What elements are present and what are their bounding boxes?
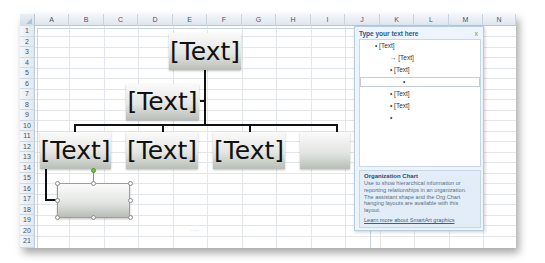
connector-sub-vertical [45, 169, 47, 201]
row-header-11[interactable]: 11 [20, 131, 35, 142]
arrow-bullet-icon: → [390, 54, 397, 61]
learn-more-link[interactable]: Learn more about SmartArt graphics [364, 217, 476, 223]
resize-handle-w[interactable] [55, 198, 60, 203]
text-pane-item-text[interactable]: [Text] [394, 66, 410, 73]
row-header-14[interactable]: 14 [20, 163, 35, 174]
org-child-box-2[interactable]: [Text] [126, 132, 198, 169]
connector-child-3 [249, 124, 251, 132]
row-header-10[interactable]: 10 [20, 121, 35, 132]
column-header-j[interactable]: J [345, 14, 380, 26]
text-pane-item[interactable]: • [390, 114, 392, 121]
row-header-1[interactable]: 1 [20, 26, 35, 37]
row-header-12[interactable]: 12 [20, 142, 35, 153]
row-header-13[interactable]: 13 [20, 152, 35, 163]
org-top-box[interactable]: [Text] [169, 33, 241, 70]
text-pane-item[interactable]: • [Text] [390, 102, 410, 109]
frame-resize-handle-top[interactable]: .... [188, 24, 196, 30]
rotation-handle[interactable] [91, 168, 96, 173]
column-header-f[interactable]: F [207, 14, 242, 26]
org-selected-shape[interactable] [57, 183, 130, 218]
connector-assistant [200, 100, 204, 102]
close-icon[interactable]: x [475, 30, 479, 37]
column-header-g[interactable]: G [242, 14, 276, 26]
column-header-l[interactable]: L [414, 14, 449, 26]
row-header-21[interactable]: 21 [20, 236, 35, 248]
resize-handle-s[interactable] [91, 215, 96, 220]
column-header-k[interactable]: K [380, 14, 414, 26]
resize-handle-e[interactable] [128, 198, 133, 203]
layout-description-title: Organization Chart [364, 173, 476, 179]
row-header-16[interactable]: 16 [20, 184, 35, 195]
resize-handle-nw[interactable] [55, 181, 60, 186]
layout-description-body: Use to show hierarchical information or … [364, 180, 476, 214]
column-header-d[interactable]: D [138, 14, 173, 26]
text-pane-item-text[interactable]: [Text] [394, 90, 410, 97]
connector-top-vertical [204, 70, 206, 125]
column-header-a[interactable]: A [35, 14, 69, 26]
text-pane-item-text[interactable]: [Text] [379, 42, 395, 49]
text-pane-item-selected-row [360, 77, 480, 87]
column-header-c[interactable]: C [104, 14, 138, 26]
text-pane-item[interactable]: • [Text] [390, 90, 410, 97]
org-child-box-1[interactable]: [Text] [40, 132, 111, 169]
connector-horizontal [74, 124, 338, 126]
bullet-icon: • [375, 42, 377, 49]
text-pane-item[interactable]: • [Text] [375, 42, 395, 49]
bullet-icon: • [390, 90, 392, 97]
layout-description: Organization Chart Use to show hierarchi… [359, 170, 481, 228]
connector-child-4 [336, 124, 338, 132]
bullet-icon: • [390, 114, 392, 121]
column-header-m[interactable]: M [449, 14, 483, 26]
resize-handle-se[interactable] [128, 215, 133, 220]
bullet-icon: • [390, 102, 392, 109]
column-header-h[interactable]: H [276, 14, 311, 26]
row-header-6[interactable]: 6 [20, 79, 35, 90]
row-header-3[interactable]: 3 [20, 47, 35, 58]
column-header-b[interactable]: B [69, 14, 104, 26]
bullet-icon: • [403, 78, 405, 85]
row-header-5[interactable]: 5 [20, 68, 35, 79]
text-pane-item-text[interactable]: [Text] [394, 102, 410, 109]
row-header-4[interactable]: 4 [20, 58, 35, 69]
text-pane-item[interactable]: • [Text] [390, 66, 410, 73]
org-child-box-3[interactable]: [Text] [213, 132, 285, 169]
connector-child-1 [74, 124, 76, 132]
row-header-2[interactable]: 2 [20, 37, 35, 48]
org-child-box-4[interactable] [300, 132, 350, 169]
resize-handle-ne[interactable] [128, 181, 133, 186]
bullet-icon: • [390, 66, 392, 73]
row-header-9[interactable]: 9 [20, 110, 35, 121]
text-pane-item-text[interactable]: [Text] [398, 54, 414, 61]
column-header-n[interactable]: N [483, 14, 516, 26]
row-header-15[interactable]: 15 [20, 173, 35, 184]
resize-handle-sw[interactable] [55, 215, 60, 220]
frame-resize-handle-bottom[interactable]: .... [191, 226, 199, 232]
text-pane-list: • [Text] → [Text] • [Text] • • [Text] • … [359, 39, 481, 167]
org-assistant-box[interactable]: [Text] [126, 84, 199, 120]
column-header-i[interactable]: I [311, 14, 345, 26]
column-header-row: A B C D E F G H I J K L M N [20, 14, 516, 26]
connector-child-2 [162, 124, 164, 132]
row-header-20[interactable]: 20 [20, 226, 35, 237]
select-all-corner[interactable] [20, 14, 35, 26]
text-pane: Type your text here x • [Text] → [Text] … [354, 26, 484, 231]
text-pane-item-selected[interactable]: • [403, 78, 405, 85]
row-header-17[interactable]: 17 [20, 194, 35, 205]
row-header-8[interactable]: 8 [20, 100, 35, 111]
row-header-19[interactable]: 19 [20, 215, 35, 226]
resize-handle-n[interactable] [91, 181, 96, 186]
row-header-7[interactable]: 7 [20, 89, 35, 100]
text-pane-item[interactable]: → [Text] [390, 54, 414, 61]
row-header-18[interactable]: 18 [20, 205, 35, 216]
text-pane-title: Type your text here [359, 30, 418, 37]
